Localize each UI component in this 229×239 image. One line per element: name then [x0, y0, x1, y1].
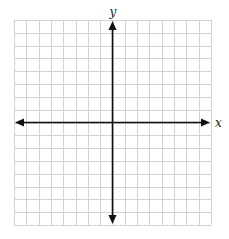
- x-axis-right-arrow-icon: [201, 119, 210, 127]
- axes: [15, 21, 210, 224]
- y-axis-label: y: [109, 5, 117, 19]
- coordinate-plane: x y: [0, 0, 229, 239]
- x-axis-left-arrow-icon: [15, 119, 24, 127]
- y-axis-down-arrow-icon: [109, 215, 117, 224]
- x-axis-label: x: [215, 116, 222, 130]
- y-axis-up-arrow-icon: [109, 21, 117, 30]
